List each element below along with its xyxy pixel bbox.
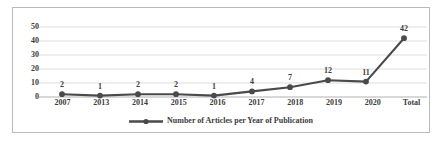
- data-point-2018: [287, 84, 293, 90]
- legend-entry-label: Number of Articles per Year of Publicati…: [167, 116, 313, 126]
- series-line: [62, 38, 404, 95]
- x-tick-label-2007: 2007: [43, 97, 82, 111]
- data-label-2013: 1: [98, 82, 102, 91]
- data-point-2020: [363, 79, 369, 85]
- x-tick-label-2019: 2019: [315, 97, 354, 111]
- y-tick-label-10: 10: [19, 79, 39, 87]
- data-label-2020: 11: [362, 68, 370, 77]
- chart-frame: 50 40 30 20 10 0 2122147121142 2007 2013: [12, 7, 430, 133]
- x-tick-label-2016: 2016: [198, 97, 237, 111]
- y-tick-label-30: 30: [19, 51, 39, 59]
- data-label-2019: 12: [324, 66, 332, 75]
- x-tick-label-2017: 2017: [237, 97, 276, 111]
- data-point-2017: [249, 89, 255, 95]
- chart-figure: 50 40 30 20 10 0 2122147121142 2007 2013: [0, 0, 442, 141]
- data-label-2017: 4: [250, 77, 254, 86]
- series-line-group: [62, 38, 404, 95]
- data-label-2018: 7: [288, 73, 292, 82]
- y-tick-label-20: 20: [19, 65, 39, 73]
- x-tick-label-2014: 2014: [121, 97, 160, 111]
- y-tick-label-0: 0: [19, 93, 39, 101]
- x-tick-label-2020: 2020: [353, 97, 392, 111]
- y-tick-label-40: 40: [19, 37, 39, 45]
- data-label-2007: 2: [60, 80, 64, 89]
- x-tick-label-2018: 2018: [276, 97, 315, 111]
- x-tick-label-2013: 2013: [82, 97, 121, 111]
- y-tick-label-50: 50: [19, 23, 39, 31]
- series-markers: [59, 35, 407, 98]
- data-label-2015: 2: [174, 80, 178, 89]
- data-point-Total: [401, 35, 407, 41]
- data-label-2014: 2: [136, 80, 140, 89]
- x-tick-label-total: Total: [392, 97, 431, 111]
- data-point-2019: [325, 77, 331, 83]
- chart-legend: Number of Articles per Year of Publicati…: [13, 116, 429, 126]
- y-axis: 50 40 30 20 10 0: [19, 8, 39, 132]
- x-tick-label-2015: 2015: [159, 97, 198, 111]
- plot-area: 50 40 30 20 10 0 2122147121142 2007 2013: [13, 8, 429, 132]
- x-axis: 2007 2013 2014 2015 2016 2017 2018 2019 …: [43, 97, 431, 111]
- data-label-Total: 42: [400, 24, 408, 33]
- legend-line-marker-icon: [129, 117, 163, 126]
- data-label-2016: 1: [212, 82, 216, 91]
